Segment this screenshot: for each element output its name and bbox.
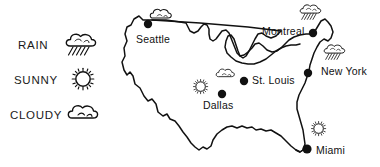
city-label-st-louis: St. Louis (252, 75, 295, 86)
city-label-dallas: Dallas (203, 100, 233, 111)
city-label-miami: Miami (316, 145, 345, 156)
city-label-montreal: Montreal (262, 26, 304, 37)
city-labels: Seattle Montreal New York St. Louis Dall… (0, 0, 380, 167)
city-label-seattle: Seattle (136, 34, 170, 45)
weather-map-figure: RAIN SUNNY CLOUDY Seattle Montreal New Y… (0, 0, 380, 167)
city-label-new-york: New York (321, 66, 367, 77)
